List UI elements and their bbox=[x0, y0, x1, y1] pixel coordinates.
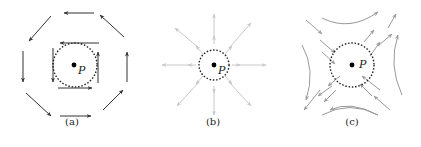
caption-c: (c) bbox=[332, 116, 372, 127]
panel-a-rotation: P (a) bbox=[0, 0, 140, 147]
caption-a: (a) bbox=[52, 116, 92, 127]
panel-c-saddle: P (c) bbox=[280, 0, 421, 147]
point-label-a: P bbox=[78, 64, 85, 77]
panel-b-source: P (b) bbox=[140, 0, 280, 147]
caption-b: (b) bbox=[193, 116, 233, 127]
point-label-b: P bbox=[218, 64, 225, 77]
point-label-c: P bbox=[359, 58, 366, 71]
